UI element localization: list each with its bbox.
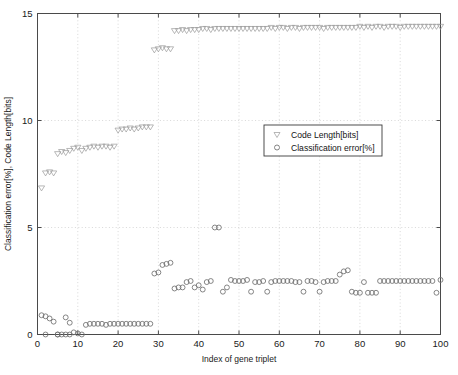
data-point-classification-error bbox=[67, 320, 72, 325]
x-tick-label: 60 bbox=[274, 338, 285, 349]
axis-tick-labels: 0102030405060708090100051015 bbox=[22, 8, 449, 349]
x-tick-label: 20 bbox=[113, 338, 124, 349]
series-classification-error bbox=[39, 225, 443, 337]
x-tick-label: 0 bbox=[35, 338, 40, 349]
data-point-code-length bbox=[38, 186, 44, 191]
x-tick-label: 40 bbox=[193, 338, 204, 349]
x-tick-label: 50 bbox=[234, 338, 245, 349]
data-point-classification-error bbox=[265, 289, 270, 294]
series-code-length bbox=[38, 24, 443, 191]
data-point-classification-error bbox=[200, 287, 205, 292]
y-axis-title: Classification error[%], Code Length[bit… bbox=[3, 97, 13, 251]
data-point-classification-error bbox=[220, 289, 225, 294]
data-point-code-length bbox=[79, 148, 85, 153]
data-point-code-length bbox=[55, 152, 61, 157]
data-point-classification-error bbox=[224, 285, 229, 290]
y-tick-label: 5 bbox=[27, 222, 32, 233]
data-point-classification-error bbox=[301, 289, 306, 294]
y-tick-label: 0 bbox=[27, 329, 32, 340]
x-tick-label: 100 bbox=[433, 338, 449, 349]
scatter-plot: 0102030405060708090100051015 Index of ge… bbox=[0, 0, 458, 375]
data-point-classification-error bbox=[434, 290, 439, 295]
legend[interactable]: Code Length[bits]Classification error[%] bbox=[264, 125, 382, 156]
legend-label: Classification error[%] bbox=[291, 143, 375, 153]
x-axis-title: Index of gene triplet bbox=[202, 354, 277, 364]
legend-label: Code Length[bits] bbox=[291, 130, 358, 140]
data-point-classification-error bbox=[361, 280, 366, 285]
x-tick-label: 10 bbox=[73, 338, 84, 349]
x-tick-label: 30 bbox=[153, 338, 164, 349]
gridlines bbox=[38, 14, 441, 335]
y-tick-label: 15 bbox=[22, 8, 33, 19]
x-tick-label: 90 bbox=[395, 338, 406, 349]
data-point-classification-error bbox=[317, 289, 322, 294]
data-point-classification-error bbox=[51, 319, 56, 324]
figure-container: 0102030405060708090100051015 Index of ge… bbox=[0, 0, 458, 375]
y-tick-label: 10 bbox=[22, 115, 33, 126]
data-point-classification-error bbox=[63, 315, 68, 320]
x-tick-label: 70 bbox=[314, 338, 325, 349]
data-point-classification-error bbox=[196, 283, 201, 288]
x-tick-label: 80 bbox=[355, 338, 366, 349]
data-point-classification-error bbox=[249, 289, 254, 294]
